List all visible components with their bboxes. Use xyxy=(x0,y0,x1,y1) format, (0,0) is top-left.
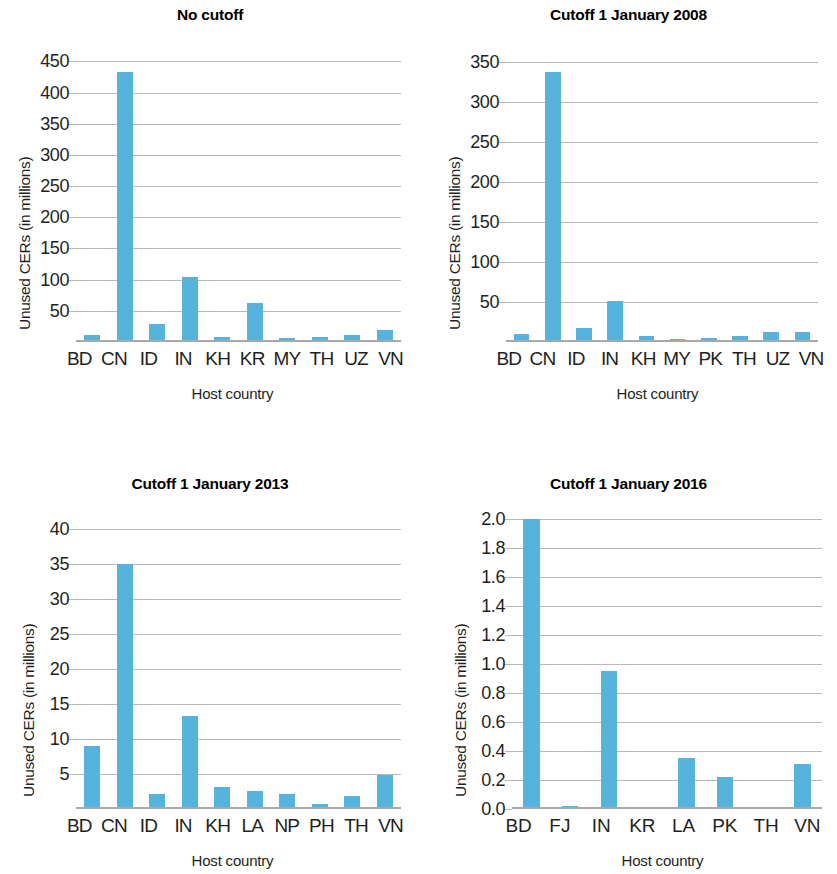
y-tick-mark xyxy=(505,751,512,752)
bar-slot xyxy=(76,519,109,809)
y-tick-mark xyxy=(69,280,76,281)
x-tick-label: IN xyxy=(581,815,622,837)
y-tick-label: 20 xyxy=(50,660,69,678)
bar-slot xyxy=(512,519,551,809)
y-tick-mark xyxy=(69,311,76,312)
bar xyxy=(523,519,539,809)
y-tick-label: 100 xyxy=(470,253,499,271)
bar-slot xyxy=(369,519,402,809)
bar-slot xyxy=(667,519,706,809)
y-tick-mark xyxy=(69,669,76,670)
chart-title: Cutoff 1 January 2016 xyxy=(420,475,837,493)
bar-slot xyxy=(304,52,337,342)
bar xyxy=(247,791,263,809)
x-tick-labels: BDCNIDINKHLANPPHTHVN xyxy=(62,815,408,837)
bar-slot xyxy=(706,519,745,809)
chart-title: Cutoff 1 January 2008 xyxy=(420,6,837,24)
x-tick-label: KH xyxy=(626,348,660,370)
x-tick-label: BD xyxy=(498,815,539,837)
y-tick-mark xyxy=(505,548,512,549)
bar xyxy=(182,277,198,342)
y-tick-label: 40 xyxy=(50,520,69,538)
plot-area: 510152025303540 xyxy=(76,519,401,809)
bar-slot xyxy=(628,519,667,809)
bar xyxy=(601,671,617,809)
y-axis-label: Unused CERs (in millions) xyxy=(446,157,464,330)
y-tick-label: 200 xyxy=(40,208,69,226)
bar-slot xyxy=(239,52,272,342)
y-tick-label: 50 xyxy=(480,293,499,311)
y-tick-mark xyxy=(69,704,76,705)
y-tick-label: 30 xyxy=(50,590,69,608)
y-tick-label: 250 xyxy=(40,177,69,195)
bar-slot xyxy=(506,52,537,342)
bar-slot xyxy=(693,52,724,342)
bar-slot xyxy=(590,519,629,809)
x-tick-label: TH xyxy=(339,815,374,837)
bar xyxy=(794,764,810,809)
chart-panel-3: Cutoff 1 January 2016Unused CERs (in mil… xyxy=(420,437,837,874)
y-tick-mark xyxy=(69,93,76,94)
bar-slot xyxy=(174,52,207,342)
bar-slot xyxy=(239,519,272,809)
bar xyxy=(678,758,694,809)
y-tick-mark xyxy=(505,635,512,636)
x-tick-label: KH xyxy=(200,815,235,837)
y-tick-mark xyxy=(499,302,506,303)
x-tick-label: PK xyxy=(704,815,745,837)
x-tick-label: LA xyxy=(235,815,270,837)
bar-slot xyxy=(756,52,787,342)
y-tick-label: 1.2 xyxy=(481,626,505,644)
bar-slot xyxy=(745,519,784,809)
y-tick-mark xyxy=(69,155,76,156)
y-tick-label: 50 xyxy=(50,302,69,320)
bar-slot xyxy=(76,52,109,342)
bar-slot xyxy=(537,52,568,342)
y-tick-mark xyxy=(499,182,506,183)
y-tick-label: 1.0 xyxy=(481,655,505,673)
y-tick-mark xyxy=(69,529,76,530)
x-tick-label: VN xyxy=(373,348,408,370)
y-tick-mark xyxy=(505,519,512,520)
x-axis-line xyxy=(76,807,401,809)
bar-slot xyxy=(369,52,402,342)
x-axis-label: Host country xyxy=(60,852,405,869)
y-tick-label: 35 xyxy=(50,555,69,573)
x-tick-labels: BDCNIDINKHMYPKTHUZVN xyxy=(492,348,828,370)
y-tick-label: 15 xyxy=(50,695,69,713)
y-tick-label: 2.0 xyxy=(481,510,505,528)
bar xyxy=(247,303,263,342)
y-tick-mark xyxy=(69,186,76,187)
x-tick-label: CN xyxy=(97,348,132,370)
x-tick-label: CN xyxy=(526,348,560,370)
y-tick-mark xyxy=(499,262,506,263)
bar xyxy=(117,564,133,809)
x-tick-label: TH xyxy=(727,348,761,370)
x-tick-label: UZ xyxy=(339,348,374,370)
plot-area: 0.00.20.40.60.81.01.21.41.61.82.0 xyxy=(512,519,822,809)
y-tick-label: 1.4 xyxy=(481,597,505,615)
y-tick-mark xyxy=(505,606,512,607)
bar-slot xyxy=(206,519,239,809)
y-tick-label: 1.8 xyxy=(481,539,505,557)
x-tick-label: TH xyxy=(746,815,787,837)
y-tick-label: 0.4 xyxy=(481,742,505,760)
chart-panel-0: No cutoffUnused CERs (in millions)501001… xyxy=(0,0,420,437)
x-tick-label: ID xyxy=(131,348,166,370)
x-tick-label: KH xyxy=(200,348,235,370)
bar-series xyxy=(76,519,401,809)
x-tick-label: KR xyxy=(622,815,663,837)
y-tick-mark xyxy=(69,774,76,775)
plot-area: 50100150200250300350 xyxy=(506,52,818,342)
y-tick-mark xyxy=(69,739,76,740)
bar xyxy=(607,301,623,342)
x-axis-line xyxy=(512,807,822,809)
bar-slot xyxy=(271,52,304,342)
y-tick-mark xyxy=(505,693,512,694)
x-tick-label: CN xyxy=(97,815,132,837)
bar-slot xyxy=(174,519,207,809)
x-tick-label: NP xyxy=(270,815,305,837)
bar-series xyxy=(506,52,818,342)
y-tick-mark xyxy=(69,564,76,565)
x-axis-line xyxy=(506,340,818,342)
